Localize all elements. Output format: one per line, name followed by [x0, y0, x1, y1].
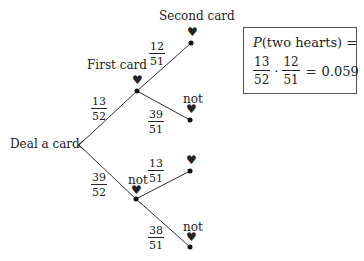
node-not-not: [188, 245, 193, 250]
heart-icon: ♥: [132, 74, 143, 86]
prob-not-heart: 13 51: [148, 158, 164, 184]
heart-icon: ♥: [186, 231, 197, 243]
result-expression: 13 52 · 12 51 = 0.059: [253, 56, 359, 86]
equals-sign: =: [306, 64, 317, 79]
times-sign: ·: [274, 64, 278, 79]
prob-heart-heart: 12 51: [149, 41, 165, 67]
result-title: P(two hearts) =: [253, 35, 357, 50]
heart-icon: ♥: [131, 184, 142, 196]
node-heart-not: [188, 118, 193, 123]
node-first-heart: [135, 89, 140, 94]
prob-first-not: 39 52: [91, 172, 107, 198]
first-card-label: First card: [87, 59, 147, 71]
heart-icon: ♥: [186, 154, 197, 166]
node-first-not: [134, 197, 139, 202]
result-value: 0.059: [322, 64, 359, 79]
prob-not-not: 38 51: [148, 225, 164, 251]
fraction-13-52: 13 52: [253, 56, 270, 86]
prob-heart-not: 39 51: [148, 109, 164, 135]
result-box: P(two hearts) = 13 52 · 12 51 = 0.059: [243, 27, 357, 94]
second-card-label: Second card: [159, 10, 235, 22]
prob-first-heart: 13 52: [91, 96, 107, 122]
heart-icon: ♥: [187, 26, 198, 38]
node-heart-heart: [189, 41, 194, 46]
branch-first-not: [79, 145, 136, 199]
node-not-heart: [188, 169, 193, 174]
heart-icon: ♥: [186, 103, 197, 115]
root-label: Deal a card: [10, 138, 80, 150]
branch-first-heart: [79, 91, 137, 145]
fraction-12-51: 12 51: [282, 56, 299, 86]
